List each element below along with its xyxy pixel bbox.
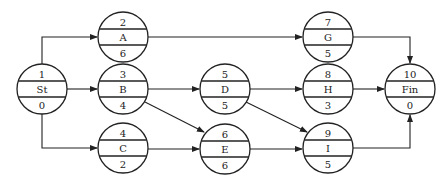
edge-st-c (42, 114, 97, 148)
node-number: 7 (325, 17, 331, 28)
node-duration: 4 (120, 100, 126, 111)
node-name: A (118, 32, 127, 43)
node-name: H (324, 84, 333, 95)
node-i: 9I5 (303, 123, 353, 173)
node-number: 3 (120, 69, 126, 80)
node-duration: 5 (222, 100, 228, 111)
node-number: 4 (120, 128, 126, 139)
node-a: 2A6 (98, 12, 148, 62)
edge-st-a (42, 37, 97, 64)
node-h: 8H3 (303, 64, 353, 114)
node-number: 1 (39, 69, 45, 80)
node-name: Fin (402, 84, 419, 95)
edge-g-fin (353, 37, 410, 63)
edge-d-i (246, 102, 307, 132)
node-fin: 10Fin0 (385, 64, 435, 114)
node-duration: 0 (407, 100, 413, 111)
node-duration: 6 (120, 48, 126, 59)
network-diagram: 1St02A63B44C25D56E67G58H39I510Fin0 (0, 0, 447, 184)
node-duration: 0 (39, 100, 45, 111)
node-name: G (324, 32, 332, 43)
node-number: 6 (222, 129, 228, 140)
edge-b-e (145, 102, 204, 132)
node-duration: 5 (325, 48, 331, 59)
node-name: E (221, 144, 228, 155)
node-name: I (326, 143, 330, 154)
edge-i-fin (353, 115, 410, 148)
node-number: 10 (404, 69, 417, 80)
node-d: 5D5 (200, 64, 250, 114)
node-name: B (119, 84, 126, 95)
node-duration: 5 (325, 159, 331, 170)
node-st: 1St0 (17, 64, 67, 114)
node-e: 6E6 (200, 124, 250, 174)
node-name: D (221, 84, 229, 95)
node-name: St (37, 84, 48, 95)
node-duration: 3 (325, 100, 331, 111)
node-number: 8 (325, 69, 331, 80)
node-duration: 2 (120, 159, 126, 170)
node-name: C (119, 143, 127, 154)
node-b: 3B4 (98, 64, 148, 114)
nodes: 1St02A63B44C25D56E67G58H39I510Fin0 (17, 12, 435, 174)
node-duration: 6 (222, 160, 228, 171)
node-number: 5 (222, 69, 228, 80)
node-c: 4C2 (98, 123, 148, 173)
node-g: 7G5 (303, 12, 353, 62)
node-number: 2 (120, 17, 126, 28)
node-number: 9 (325, 128, 331, 139)
